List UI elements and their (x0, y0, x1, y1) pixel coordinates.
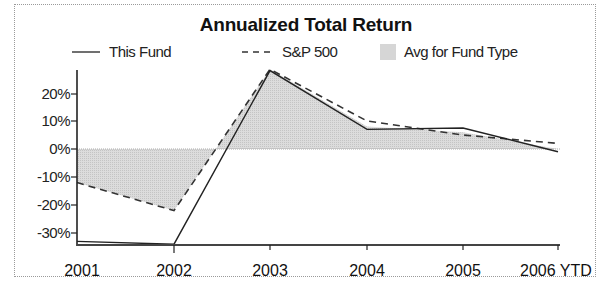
y-ticks (71, 94, 77, 233)
plot-area (0, 0, 612, 295)
avg-fund-type-area (77, 69, 558, 210)
x-ticks (174, 245, 558, 253)
